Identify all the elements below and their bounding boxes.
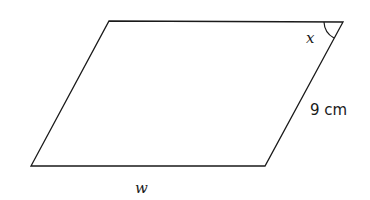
parallelogram-diagram: x 9 cm w bbox=[0, 0, 370, 200]
angle-label: x bbox=[306, 29, 315, 47]
side-length-label: 9 cm bbox=[310, 101, 347, 119]
base-label: w bbox=[135, 179, 148, 197]
parallelogram-shape bbox=[31, 21, 343, 166]
angle-arc bbox=[324, 22, 334, 38]
